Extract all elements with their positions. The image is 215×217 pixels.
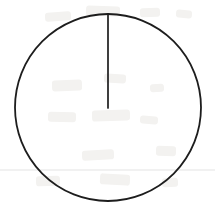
showthrough-mark (92, 109, 130, 121)
showthrough-mark (45, 11, 72, 22)
showthrough-mark (48, 112, 76, 122)
showthrough-mark (100, 173, 131, 186)
circle-radius-figure (0, 0, 215, 217)
paper-showthrough-marks (36, 5, 192, 187)
showthrough-mark (156, 146, 176, 157)
showthrough-mark (176, 9, 193, 18)
showthrough-mark (150, 83, 165, 92)
showthrough-mark (82, 149, 114, 161)
showthrough-mark (52, 79, 82, 91)
showthrough-mark (104, 73, 126, 83)
showthrough-mark (140, 7, 160, 17)
diagram-canvas: Circle with radius segment (0, 0, 215, 217)
showthrough-mark (140, 115, 159, 124)
